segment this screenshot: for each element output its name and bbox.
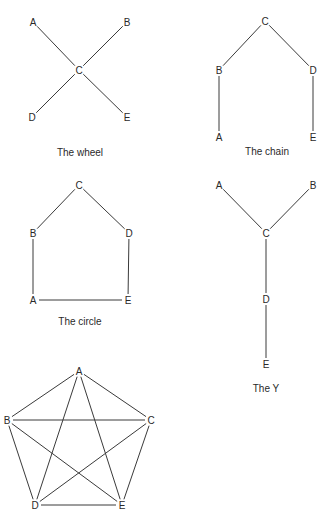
node-label-c: C: [147, 415, 154, 426]
node-label-e: E: [310, 132, 317, 143]
edge-a-b: [12, 374, 74, 416]
edge-e-c: [83, 74, 122, 113]
node-label-c: C: [262, 228, 269, 239]
node-label-c: C: [75, 65, 82, 76]
edge-a-c: [84, 374, 146, 416]
network-y: ABCDEThe Y: [216, 180, 317, 394]
network-circle: CBDAEThe circle: [30, 180, 133, 327]
network-chain: CBDAEThe chain: [216, 16, 317, 157]
node-label-e: E: [119, 500, 126, 511]
edge-d-e: [128, 239, 129, 294]
edge-b-c: [223, 25, 261, 65]
node-label-d: D: [28, 112, 35, 123]
edge-c-d: [269, 25, 309, 65]
node-label-a: A: [30, 295, 37, 306]
node-label-b: B: [30, 228, 37, 239]
edge-b-e: [12, 424, 117, 502]
edge-b-c: [83, 26, 123, 66]
edge-b-c: [37, 189, 75, 228]
node-label-b: B: [216, 65, 223, 76]
caption-circle: The circle: [58, 316, 102, 327]
edge-a-c: [37, 26, 75, 65]
edge-c-d: [40, 424, 146, 502]
node-label-b: B: [124, 17, 131, 28]
edge-c-d: [83, 189, 124, 229]
node-label-c: C: [75, 180, 82, 191]
node-label-b: B: [4, 415, 11, 426]
caption-chain: The chain: [245, 146, 289, 157]
network-wheel: ABCDEThe wheel: [28, 17, 130, 158]
edge-d-c: [36, 74, 75, 113]
node-label-a: A: [30, 17, 37, 28]
network-all-channel: ABCDE: [4, 366, 155, 511]
node-label-a: A: [216, 180, 223, 191]
node-label-c: C: [261, 16, 268, 27]
caption-y: The Y: [253, 383, 280, 394]
node-label-d: D: [125, 228, 132, 239]
node-label-e: E: [125, 295, 132, 306]
node-label-a: A: [216, 132, 223, 143]
node-label-a: A: [76, 366, 83, 377]
node-label-e: E: [124, 112, 131, 123]
node-label-b: B: [310, 180, 317, 191]
edge-b-c: [270, 189, 309, 228]
caption-wheel: The wheel: [57, 147, 103, 158]
communication-networks-diagram: ABCDEThe wheel CBDAEThe chain CBDAEThe c…: [0, 0, 321, 523]
node-label-d: D: [262, 294, 269, 305]
edge-a-c: [223, 189, 262, 228]
node-label-d: D: [31, 500, 38, 511]
node-label-d: D: [309, 65, 316, 76]
node-label-e: E: [263, 359, 270, 370]
